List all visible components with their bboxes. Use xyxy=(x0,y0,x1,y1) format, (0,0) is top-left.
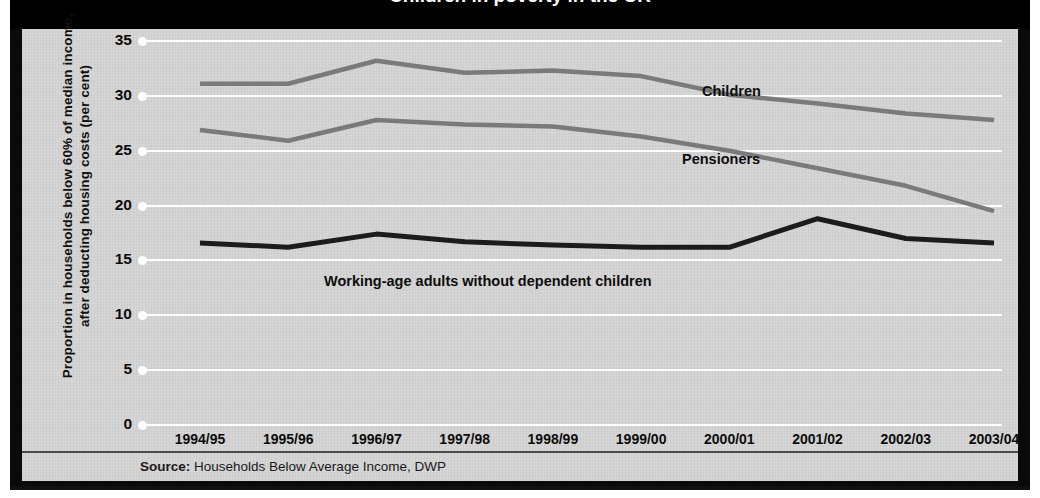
y-axis-tick-label: 20 xyxy=(72,196,132,214)
x-axis-tick-label: 1997/98 xyxy=(439,431,490,447)
x-axis-tick-label: 1994/95 xyxy=(175,431,226,447)
series-line-pensioners xyxy=(200,120,994,211)
y-axis-tick-label: 10 xyxy=(72,305,132,323)
series-line-children xyxy=(200,61,994,120)
x-axis-tick-label: 2003/04 xyxy=(969,431,1020,447)
source-bar: Source: Households Below Average Income,… xyxy=(22,451,1018,481)
y-axis-tick-labels: 35302520151050 xyxy=(70,41,132,425)
y-axis-tick-label: 0 xyxy=(72,415,132,433)
y-axis-tick-label: 5 xyxy=(72,360,132,378)
series-label-pensioners: Pensioners xyxy=(682,151,760,167)
series-label-working-age: Working-age adults without dependent chi… xyxy=(324,273,652,289)
x-axis-tick-label: 2001/02 xyxy=(792,431,843,447)
y-axis-tick-label: 15 xyxy=(72,250,132,268)
source-note: Source: Households Below Average Income,… xyxy=(140,459,446,474)
source-prefix: Source: xyxy=(140,459,190,474)
source-text: Households Below Average Income, DWP xyxy=(194,459,446,474)
x-axis-tick-label: 1999/00 xyxy=(616,431,667,447)
chart-title-band: Children in poverty in the UK xyxy=(10,0,1030,29)
y-axis-tick-label: 25 xyxy=(72,141,132,159)
chart-screenshot: Children in poverty in the UK Proportion… xyxy=(0,0,1040,498)
x-axis-tick-label: 2002/03 xyxy=(880,431,931,447)
series-lines xyxy=(142,41,1002,425)
y-axis-tick-label: 35 xyxy=(72,31,132,49)
x-axis-tick-label: 1998/99 xyxy=(528,431,579,447)
y-axis-tick-label: 30 xyxy=(72,86,132,104)
x-axis-tick-label: 1995/96 xyxy=(263,431,314,447)
x-axis-tick-label: 2000/01 xyxy=(704,431,755,447)
plot-area: Children Pensioners Working-age adults w… xyxy=(142,41,1002,425)
page-title: Children in poverty in the UK xyxy=(389,0,651,6)
x-axis-tick-label: 1996/97 xyxy=(351,431,402,447)
series-line-working-age xyxy=(200,219,994,248)
series-label-children: Children xyxy=(702,83,761,99)
chart-frame: Children in poverty in the UK Proportion… xyxy=(10,0,1030,490)
chart-plate: Proportion in households below 60% of me… xyxy=(22,29,1018,481)
